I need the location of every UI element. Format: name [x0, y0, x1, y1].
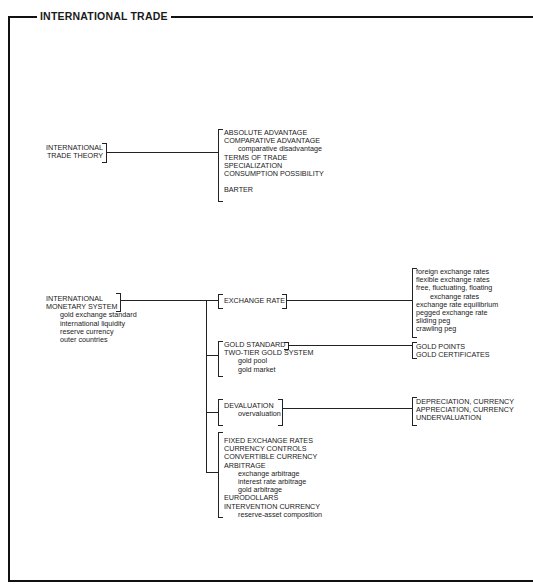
- branch-devaluation: DEVALUATION overvaluation: [224, 402, 281, 418]
- fixed-group-bracket: [218, 432, 223, 518]
- branch-exchange-rate: EXCHANGE RATE: [224, 297, 285, 305]
- devaluation-right-bracket: [278, 399, 283, 426]
- gold-targets: GOLD POINTS GOLD CERTIFICATES: [416, 343, 490, 359]
- devaluation-targets: DEPRECIATION, CURRENCY APPRECIATION, CUR…: [416, 398, 514, 423]
- trunk-to-gold: [206, 355, 218, 356]
- trunk-vertical: [206, 300, 207, 472]
- exchange-rate-targets: foreign exchange rates flexible exchange…: [416, 268, 498, 334]
- connector-gold: [288, 345, 412, 346]
- node-consumption-possibility: CONSUMPTION POSSIBILITY: [224, 170, 324, 178]
- monetary-root-bracket: [116, 293, 121, 312]
- devaluation-left-bracket: [218, 399, 223, 426]
- exchange-rate-right-bracket: [282, 294, 287, 309]
- frame-left-line: [8, 16, 10, 582]
- node-barter: BARTER: [224, 186, 324, 194]
- node-gold-market: gold market: [224, 366, 313, 374]
- trade-theory-children-bracket: [218, 129, 223, 202]
- trade-theory-root: INTERNATIONAL TRADE THEORY: [46, 144, 103, 160]
- exchange-rate-left-bracket: [218, 294, 223, 309]
- root-line-2: TRADE THEORY: [46, 152, 103, 160]
- trade-theory-root-bracket: [102, 143, 107, 163]
- connector-trade-theory: [106, 152, 218, 153]
- node-overvaluation: overvaluation: [224, 410, 281, 418]
- trade-theory-children: ABSOLUTE ADVANTAGE COMPARATIVE ADVANTAGE…: [224, 129, 324, 194]
- diagram-title: INTERNATIONAL TRADE: [37, 10, 171, 22]
- node-gold-certificates: GOLD CERTIFICATES: [416, 351, 490, 359]
- gold-standard-right-bracket: [284, 342, 289, 350]
- connector-devaluation: [282, 408, 412, 409]
- gold-left-bracket: [218, 341, 223, 377]
- node-reserve-asset-composition: reserve-asset composition: [224, 511, 322, 519]
- node-undervaluation: UNDERVALUATION: [416, 414, 514, 422]
- frame-bottom-line: [8, 580, 533, 582]
- trunk-to-fixed-group: [206, 472, 218, 473]
- monetary-system-root: INTERNATIONAL MONETARY SYSTEM gold excha…: [46, 295, 137, 344]
- node-crawling-peg: crawling peg: [416, 325, 498, 333]
- branch-fixed-group: FIXED EXCHANGE RATES CURRENCY CONTROLS C…: [224, 437, 322, 519]
- connector-monetary-trunk: [120, 300, 218, 301]
- trunk-to-devaluation: [206, 412, 218, 413]
- node-exchange-rate: EXCHANGE RATE: [224, 297, 285, 305]
- node-outer-countries: outer countries: [46, 336, 137, 344]
- connector-exchange-rate: [286, 300, 412, 301]
